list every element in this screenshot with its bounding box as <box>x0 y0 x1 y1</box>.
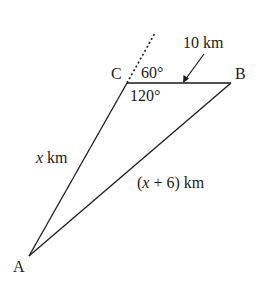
side-label-ca-unit: km <box>43 149 67 166</box>
side-ca <box>29 83 127 256</box>
angle-label-exterior-c: 60° <box>141 65 163 81</box>
triangle-figure <box>0 0 264 284</box>
vertex-label-a: A <box>13 259 25 275</box>
side-label-ab: (x + 6) km <box>137 175 204 191</box>
pointer-arrow-shaft <box>185 54 204 80</box>
side-ab <box>29 83 231 256</box>
angle-label-interior-c: 120° <box>130 88 160 104</box>
side-label-ca: x km <box>36 150 68 166</box>
diagram-canvas: C B A 60° 120° 10 km x km (x + 6) km <box>0 0 264 284</box>
vertex-label-c: C <box>111 66 122 82</box>
side-label-ab-rest: + 6) km <box>149 174 204 191</box>
vertex-label-b: B <box>235 66 246 82</box>
side-label-cb: 10 km <box>183 35 223 51</box>
